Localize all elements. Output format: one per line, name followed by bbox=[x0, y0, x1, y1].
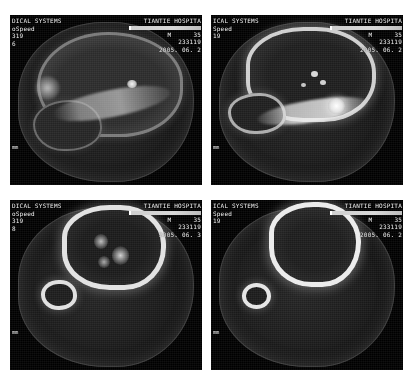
accession-number: 233119 bbox=[129, 38, 201, 46]
hospital-name: TIANTIE HOSPITA bbox=[330, 17, 402, 25]
study-date: 2005. 06. 2 bbox=[330, 46, 402, 54]
patient-sex: M bbox=[368, 216, 372, 224]
window-level-bar[interactable] bbox=[129, 211, 201, 215]
patient-sex: M bbox=[167, 216, 171, 224]
patient-sex: M bbox=[167, 31, 171, 39]
ct-montage: DICAL SYSTEMS oSpeed 319 6 TIANTIE HOSPI… bbox=[0, 0, 414, 384]
patient-age: 35 bbox=[175, 216, 201, 224]
id-line: 319 bbox=[12, 32, 62, 40]
window-level-bar[interactable] bbox=[129, 26, 201, 30]
manufacturer-line: DICAL SYSTEMS bbox=[12, 17, 62, 25]
patient-sex-age-line: M 35 bbox=[129, 216, 201, 224]
overlay-top-left-block: ICAL SYSTEMS Speed 19 bbox=[213, 17, 259, 40]
patient-sex-age-line: M 35 bbox=[330, 31, 402, 39]
overlay-top-right-block: TIANTIE HOSPITA M 35 233119 2005. 06. 3 bbox=[129, 202, 201, 238]
scanner-line: Speed bbox=[213, 25, 259, 33]
dicom-overlay-bottom-left: DICAL SYSTEMS oSpeed 319 8 TIANTIE HOSPI… bbox=[10, 200, 202, 370]
manufacturer-line: DICAL SYSTEMS bbox=[12, 202, 62, 210]
id-line: 319 bbox=[12, 217, 62, 225]
scanner-line: Speed bbox=[213, 210, 259, 218]
id-line: 19 bbox=[213, 32, 259, 40]
patient-sex-age-line: M 35 bbox=[330, 216, 402, 224]
overlay-top-right-block: TIANTIE HOSPITA M 35 233119 2005. 06. 2 bbox=[330, 202, 402, 238]
extra-line: 6 bbox=[12, 40, 62, 48]
window-level-bar[interactable] bbox=[330, 26, 402, 30]
study-date: 2005. 06. 2 bbox=[330, 231, 402, 239]
accession-number: 233119 bbox=[330, 38, 402, 46]
ct-panel-bottom-left[interactable]: DICAL SYSTEMS oSpeed 319 8 TIANTIE HOSPI… bbox=[10, 200, 202, 370]
patient-age: 35 bbox=[376, 31, 402, 39]
window-level-bar[interactable] bbox=[330, 211, 402, 215]
overlay-top-left-block: DICAL SYSTEMS oSpeed 319 6 bbox=[12, 17, 62, 47]
ct-panel-top-right[interactable]: ICAL SYSTEMS Speed 19 TIANTIE HOSPITA M … bbox=[211, 15, 403, 185]
scale-label: mm bbox=[213, 329, 219, 337]
patient-sex-age-line: M 35 bbox=[129, 31, 201, 39]
id-line: 19 bbox=[213, 217, 259, 225]
scanner-line: oSpeed bbox=[12, 25, 62, 33]
dicom-overlay-top-left: DICAL SYSTEMS oSpeed 319 6 TIANTIE HOSPI… bbox=[10, 15, 202, 185]
scale-label: mm bbox=[213, 144, 219, 152]
extra-line: 8 bbox=[12, 225, 62, 233]
manufacturer-line: ICAL SYSTEMS bbox=[213, 17, 259, 25]
hospital-name: TIANTIE HOSPITA bbox=[129, 17, 201, 25]
dicom-overlay-bottom-right: ICAL SYSTEMS Speed 19 TIANTIE HOSPITA M … bbox=[211, 200, 403, 370]
overlay-top-left-block: ICAL SYSTEMS Speed 19 bbox=[213, 202, 259, 225]
overlay-top-left-block: DICAL SYSTEMS oSpeed 319 8 bbox=[12, 202, 62, 232]
dicom-overlay-top-right: ICAL SYSTEMS Speed 19 TIANTIE HOSPITA M … bbox=[211, 15, 403, 185]
study-date: 2005. 06. 2 bbox=[129, 46, 201, 54]
ct-panel-bottom-right[interactable]: ICAL SYSTEMS Speed 19 TIANTIE HOSPITA M … bbox=[211, 200, 403, 370]
hospital-name: TIANTIE HOSPITA bbox=[330, 202, 402, 210]
scanner-line: oSpeed bbox=[12, 210, 62, 218]
scale-label: mm bbox=[12, 329, 18, 337]
manufacturer-line: ICAL SYSTEMS bbox=[213, 202, 259, 210]
overlay-top-right-block: TIANTIE HOSPITA M 35 233119 2005. 06. 2 bbox=[330, 17, 402, 53]
scale-label: mm bbox=[12, 144, 18, 152]
patient-sex: M bbox=[368, 31, 372, 39]
hospital-name: TIANTIE HOSPITA bbox=[129, 202, 201, 210]
ct-panel-top-left[interactable]: DICAL SYSTEMS oSpeed 319 6 TIANTIE HOSPI… bbox=[10, 15, 202, 185]
accession-number: 233119 bbox=[330, 223, 402, 231]
patient-age: 35 bbox=[376, 216, 402, 224]
accession-number: 233119 bbox=[129, 223, 201, 231]
study-date: 2005. 06. 3 bbox=[129, 231, 201, 239]
patient-age: 35 bbox=[175, 31, 201, 39]
overlay-top-right-block: TIANTIE HOSPITA M 35 233119 2005. 06. 2 bbox=[129, 17, 201, 53]
